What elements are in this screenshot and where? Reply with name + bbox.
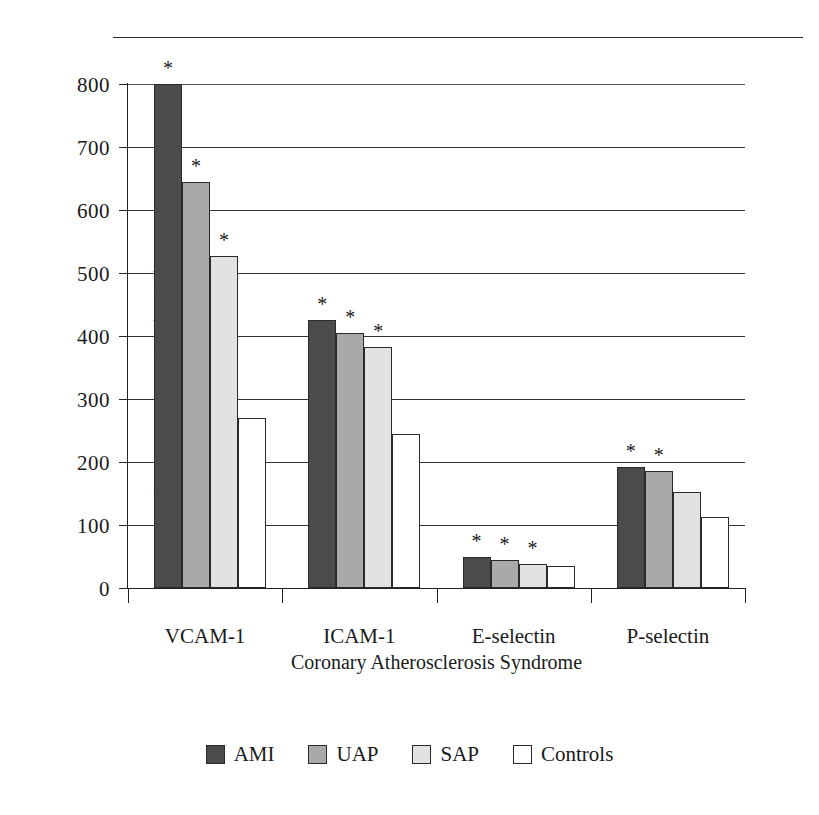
legend-swatch-sap [412, 745, 431, 764]
y-tick-label: 0 [99, 577, 110, 602]
y-tick: 0 [119, 588, 128, 589]
bar-p-selectin-ami [617, 467, 645, 588]
legend-item-ami: AMI [206, 742, 275, 767]
x-divider [437, 588, 438, 603]
legend-label: SAP [440, 742, 479, 767]
bar-p-selectin-controls [701, 517, 729, 588]
y-tick-label: 700 [77, 136, 110, 161]
y-tick: 700 [119, 147, 128, 148]
significance-marker: * [654, 445, 664, 465]
significance-marker: * [191, 156, 201, 176]
bar-e-selectin-sap [519, 564, 547, 588]
x-end-tick [745, 588, 746, 603]
y-tick-label: 400 [77, 325, 110, 350]
y-tick-label: 100 [77, 514, 110, 539]
bar-vcam-1-ami [154, 84, 182, 588]
legend-item-controls: Controls [513, 742, 613, 767]
plot-area: 0100200300400500600700800 *********** VC… [128, 84, 745, 588]
legend: AMIUAPSAPControls [0, 742, 819, 767]
legend-label: AMI [234, 742, 275, 767]
gridline [128, 84, 745, 85]
significance-marker: * [500, 534, 510, 554]
significance-marker: * [219, 230, 229, 250]
significance-marker: * [472, 531, 482, 551]
legend-swatch-ami [206, 745, 225, 764]
bar-vcam-1-sap [210, 256, 238, 588]
figure: 0100200300400500600700800 *********** VC… [0, 0, 819, 815]
bar-p-selectin-sap [673, 492, 701, 588]
bar-icam-1-ami [308, 320, 336, 588]
x-category-label-p-selectin: P-selectin [626, 624, 709, 649]
y-tick-label: 800 [77, 73, 110, 98]
y-tick-label: 600 [77, 199, 110, 224]
figure-top-rule [113, 37, 803, 38]
significance-marker: * [626, 441, 636, 461]
bar-icam-1-uap [336, 333, 364, 588]
gridline [128, 210, 745, 211]
bar-icam-1-sap [364, 347, 392, 588]
y-tick-label: 200 [77, 451, 110, 476]
legend-item-sap: SAP [412, 742, 479, 767]
x-divider [282, 588, 283, 603]
gridline [128, 147, 745, 148]
legend-swatch-uap [308, 745, 327, 764]
bar-vcam-1-uap [182, 182, 210, 588]
significance-marker: * [528, 538, 538, 558]
y-tick: 800 [119, 84, 128, 85]
x-category-label-icam-1: ICAM-1 [323, 624, 395, 649]
significance-marker: * [345, 307, 355, 327]
y-tick: 100 [119, 525, 128, 526]
bar-e-selectin-ami [463, 557, 491, 589]
legend-label: UAP [336, 742, 378, 767]
bar-e-selectin-controls [547, 566, 575, 588]
y-tick: 600 [119, 210, 128, 211]
bar-icam-1-controls [392, 434, 420, 588]
x-divider [591, 588, 592, 603]
y-tick-label: 300 [77, 388, 110, 413]
y-tick: 200 [119, 462, 128, 463]
legend-swatch-controls [513, 745, 532, 764]
legend-label: Controls [541, 742, 613, 767]
y-tick-label: 500 [77, 262, 110, 287]
y-tick: 300 [119, 399, 128, 400]
x-category-label-e-selectin: E-selectin [472, 624, 556, 649]
x-axis-title: Coronary Atherosclerosis Syndrome [128, 651, 745, 674]
bar-e-selectin-uap [491, 560, 519, 588]
bar-p-selectin-uap [645, 471, 673, 588]
y-tick: 500 [119, 273, 128, 274]
x-category-label-vcam-1: VCAM-1 [165, 624, 246, 649]
significance-marker: * [373, 321, 383, 341]
legend-item-uap: UAP [308, 742, 378, 767]
significance-marker: * [317, 294, 327, 314]
y-tick: 400 [119, 336, 128, 337]
x-end-tick [128, 588, 129, 603]
significance-marker: * [163, 58, 173, 78]
bar-vcam-1-controls [238, 418, 266, 588]
